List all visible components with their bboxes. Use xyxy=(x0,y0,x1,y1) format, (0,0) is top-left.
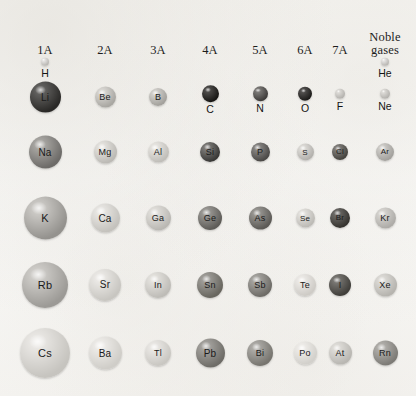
atom-sphere-xe: Xe xyxy=(374,274,397,297)
element-symbol-sn: Sn xyxy=(204,281,215,290)
element-symbol-ba: Ba xyxy=(99,348,112,358)
element-symbol-ar: Ar xyxy=(381,148,389,156)
group-header-2a: 2A xyxy=(97,44,113,57)
element-symbol-po: Po xyxy=(299,349,310,358)
atom-sphere-ar: Ar xyxy=(376,143,394,161)
atom-sphere-mg: Mg xyxy=(94,141,117,164)
element-symbol-mg: Mg xyxy=(99,148,112,157)
atom-sphere-k: K xyxy=(24,197,67,240)
group-header-noble-gases: Noble gases xyxy=(369,31,401,57)
element-symbol-c: C xyxy=(206,104,214,115)
atom-sphere-n xyxy=(253,86,268,101)
element-cell-ne: Ne xyxy=(358,89,412,112)
element-symbol-pb: Pb xyxy=(204,348,217,358)
element-symbol-n: N xyxy=(256,103,264,114)
element-symbol-p: P xyxy=(257,148,263,157)
element-symbol-o: O xyxy=(301,103,309,114)
atom-sphere-kr: Kr xyxy=(375,208,396,229)
atomic-radii-figure: 1A2A3A4A5A6A7ANoble gases HHeLiBeBCNOFNe… xyxy=(0,0,416,396)
atom-sphere-ne xyxy=(380,89,390,99)
group-header-3a: 3A xyxy=(150,44,166,57)
element-symbol-sb: Sb xyxy=(254,281,265,290)
element-symbol-al: Al xyxy=(154,148,162,157)
element-symbol-he: He xyxy=(378,68,391,79)
element-cell-c: C xyxy=(183,85,237,115)
element-cell-xe: Xe xyxy=(358,274,412,297)
atom-sphere-as: As xyxy=(249,207,272,230)
element-cell-ar: Ar xyxy=(358,143,412,161)
atom-sphere-ca: Ca xyxy=(91,204,120,233)
element-symbol-ca: Ca xyxy=(98,213,111,223)
atom-sphere-cl: Cl xyxy=(332,144,348,160)
element-symbol-ne: Ne xyxy=(378,101,391,112)
element-symbol-bi: Bi xyxy=(256,349,264,358)
atom-sphere-ba: Ba xyxy=(89,337,122,370)
group-header-6a: 6A xyxy=(297,44,313,57)
element-symbol-li: Li xyxy=(41,92,49,102)
element-cell-al: Al xyxy=(131,142,185,163)
atom-sphere-c xyxy=(202,85,219,102)
atom-sphere-b: B xyxy=(149,88,167,106)
atom-sphere-he xyxy=(381,58,389,66)
atom-sphere-f xyxy=(335,89,345,99)
atom-sphere-o xyxy=(298,87,312,101)
atom-sphere-rb: Rb xyxy=(22,262,68,308)
element-symbol-na: Na xyxy=(38,147,51,157)
element-cell-sr: Sr xyxy=(78,269,132,301)
atom-sphere-tl: Tl xyxy=(145,340,171,366)
element-symbol-be: Be xyxy=(99,93,110,102)
element-symbol-b: B xyxy=(155,93,161,102)
element-symbol-s: S xyxy=(302,148,308,156)
atom-sphere-sn: Sn xyxy=(197,272,223,298)
element-cell-li: Li xyxy=(18,82,72,113)
atom-sphere-ge: Ge xyxy=(198,206,222,230)
element-cell-b: B xyxy=(131,88,185,106)
group-header-4a: 4A xyxy=(202,44,218,57)
element-cell-ga: Ga xyxy=(131,206,185,231)
atom-sphere-pb: Pb xyxy=(196,339,225,368)
element-cell-cs: Cs xyxy=(18,328,72,378)
element-symbol-sr: Sr xyxy=(100,280,110,290)
element-symbol-se: Se xyxy=(300,214,310,222)
element-cell-rn: Rn xyxy=(358,341,412,366)
atom-sphere-p: P xyxy=(251,143,270,162)
group-header-7a: 7A xyxy=(332,44,348,57)
element-symbol-cs: Cs xyxy=(38,348,52,359)
element-symbol-br: Br xyxy=(336,214,344,222)
element-cell-sn: Sn xyxy=(183,272,237,298)
atom-sphere-be: Be xyxy=(95,87,116,108)
element-symbol-rb: Rb xyxy=(38,280,52,291)
atom-sphere-sr: Sr xyxy=(89,269,121,301)
element-cell-na: Na xyxy=(18,136,72,169)
element-symbol-ga: Ga xyxy=(152,214,164,223)
element-cell-pb: Pb xyxy=(183,339,237,368)
atom-sphere-na: Na xyxy=(29,136,62,169)
atom-sphere-al: Al xyxy=(148,142,169,163)
element-symbol-i: I xyxy=(339,281,342,290)
element-cell-ca: Ca xyxy=(78,204,132,233)
element-symbol-at: At xyxy=(336,349,345,358)
element-cell-in: In xyxy=(131,272,185,298)
element-cell-mg: Mg xyxy=(78,141,132,164)
element-symbol-f: F xyxy=(337,101,343,112)
element-symbol-te: Te xyxy=(300,281,310,290)
element-symbol-tl: Tl xyxy=(154,349,162,358)
element-symbol-k: K xyxy=(41,213,49,224)
element-cell-k: K xyxy=(18,197,72,240)
atom-sphere-s: S xyxy=(297,144,314,161)
atom-sphere-li: Li xyxy=(30,82,61,113)
atom-sphere-cs: Cs xyxy=(20,328,70,378)
element-cell-be: Be xyxy=(78,87,132,108)
atom-sphere-si: Si xyxy=(200,142,220,162)
element-symbol-in: In xyxy=(154,281,162,290)
element-symbol-ge: Ge xyxy=(204,214,216,223)
element-cell-ge: Ge xyxy=(183,206,237,230)
atom-sphere-br: Br xyxy=(330,208,350,228)
element-symbol-rn: Rn xyxy=(379,349,391,358)
element-cell-h: H xyxy=(18,58,72,79)
element-symbol-as: As xyxy=(255,214,266,223)
element-cell-ba: Ba xyxy=(78,337,132,370)
element-cell-kr: Kr xyxy=(358,208,412,229)
atom-sphere-h xyxy=(41,58,49,66)
group-header-1a: 1A xyxy=(37,44,53,57)
